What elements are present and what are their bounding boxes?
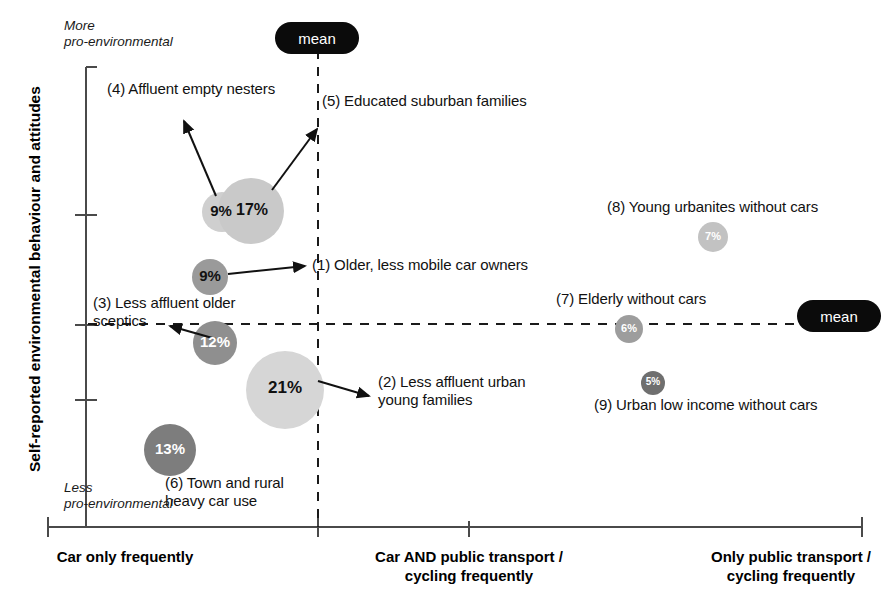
segment-label-9: (9) Urban low income without cars <box>594 396 817 414</box>
bubble-8[interactable] <box>698 222 728 252</box>
segment-label-1: (1) Older, less mobile car owners <box>312 256 528 274</box>
y-axis-title: Self-reported environmental behaviour an… <box>26 86 44 472</box>
segment-label-5: (5) Educated suburban families <box>322 92 527 110</box>
segment-label-2: (2) Less affluent urban young families <box>378 373 526 410</box>
segment-label-4: (4) Affluent empty nesters <box>107 80 275 98</box>
arrow-to-label-2 <box>318 381 369 396</box>
bubble-1[interactable] <box>192 259 228 295</box>
bubble-9[interactable] <box>641 371 665 395</box>
x-axis-tick-label-0: Car only frequently <box>0 548 250 567</box>
segment-label-7: (7) Elderly without cars <box>556 290 706 308</box>
segment-label-8: (8) Young urbanites without cars <box>607 198 818 216</box>
segment-label-3: (3) Less affluent older sceptics <box>93 294 236 331</box>
bubble-6[interactable] <box>144 424 196 476</box>
x-axis-tick-label-2: Only public transport / cycling frequent… <box>686 548 896 586</box>
arrow-to-label-4 <box>184 121 216 196</box>
y-axis-top-note: More pro-environmental <box>64 18 174 50</box>
bubble-chart: 9% 17% 9% 12% 21% 13% 7% 6% 5% (4) Afflu… <box>0 0 896 613</box>
bubble-2[interactable] <box>246 351 324 429</box>
x-axis-tick-label-1: Car AND public transport / cycling frequ… <box>349 548 589 586</box>
mean-label-vertical: mean <box>275 22 359 54</box>
bubble-7[interactable] <box>615 315 643 343</box>
mean-label-horizontal: mean <box>797 300 881 332</box>
arrow-to-label-5 <box>272 129 317 190</box>
y-axis-bottom-note: Less pro-environmental <box>64 480 179 512</box>
arrow-to-label-1 <box>228 266 305 274</box>
segment-label-6: (6) Town and rural heavy car use <box>165 474 284 511</box>
